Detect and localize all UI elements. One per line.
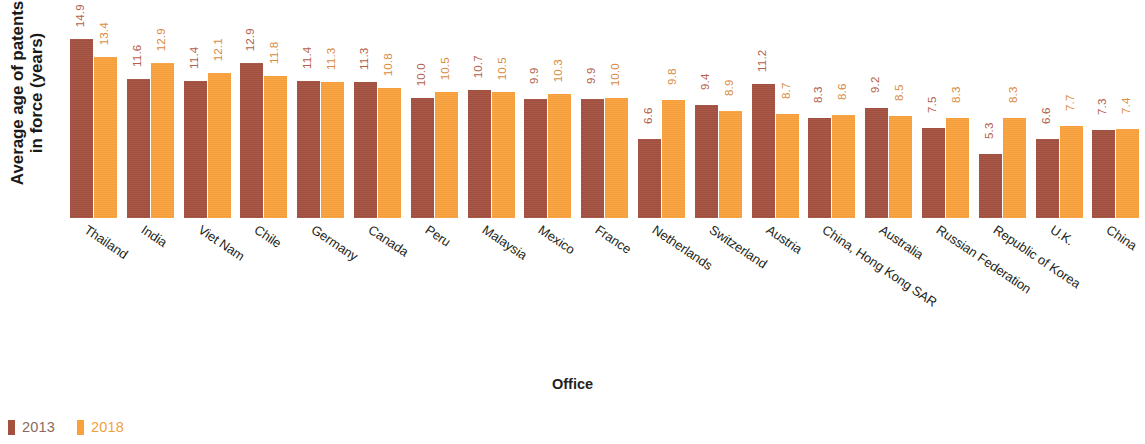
bar-2018-canada[interactable] <box>378 88 401 218</box>
bar-2013-russian-federation[interactable] <box>922 128 945 218</box>
bar-group: 11.310.8 <box>354 0 402 218</box>
bar-2013-mexico[interactable] <box>524 99 547 218</box>
bar-group: 11.412.1 <box>184 0 232 218</box>
bar-value-label: 11.2 <box>757 49 769 71</box>
bar-2013-u-k[interactable] <box>1036 139 1059 218</box>
bar-2018-china[interactable] <box>1116 129 1139 218</box>
legend-item-2018[interactable]: 2018 <box>77 419 124 435</box>
plot-area: 14.913.4Thailand11.612.9India11.412.1Vie… <box>66 0 1145 218</box>
bar-2018-france[interactable] <box>605 98 628 218</box>
bar-group: 8.38.6 <box>808 0 856 218</box>
bar-2018-u-k[interactable] <box>1060 126 1083 218</box>
bar-2013-viet-nam[interactable] <box>184 81 207 218</box>
legend-label: 2013 <box>22 419 55 435</box>
bar-value-label: 10.5 <box>440 57 452 80</box>
x-axis-tick-label: Germany <box>309 222 361 264</box>
x-axis-tick-label: Thailand <box>82 222 131 262</box>
bar-value-label: 11.3 <box>359 47 371 69</box>
legend-swatch-icon <box>77 420 84 435</box>
bar-2018-peru[interactable] <box>435 92 458 218</box>
bar-group: 14.913.4 <box>70 0 118 218</box>
x-axis-tick-label: Viet Nam <box>195 222 247 264</box>
bar-group: 10.010.5 <box>411 0 459 218</box>
bar-2013-malaysia[interactable] <box>468 90 491 218</box>
y-axis-title: Average age of patents in force (years) <box>5 0 49 198</box>
bar-2013-switzerland[interactable] <box>695 105 718 218</box>
bar-2013-china[interactable] <box>1092 130 1115 218</box>
bar-2018-austria[interactable] <box>776 114 799 218</box>
bar-value-label: 8.5 <box>894 84 906 101</box>
bar-2018-thailand[interactable] <box>94 57 117 218</box>
bar-2018-switzerland[interactable] <box>719 111 742 218</box>
y-axis-title-line-1: Average age of patents <box>8 1 27 185</box>
bar-group: 10.710.5 <box>468 0 516 218</box>
bar-2018-china-hong-kong-sar[interactable] <box>832 115 855 218</box>
bar-value-label: 10.5 <box>497 57 509 80</box>
bar-value-label: 5.3 <box>984 122 996 139</box>
legend-item-2013[interactable]: 2013 <box>8 419 55 435</box>
x-axis-tick-label: Malaysia <box>479 222 529 263</box>
bar-value-label: 6.6 <box>643 107 655 124</box>
bar-value-label: 11.6 <box>132 44 144 66</box>
bar-2018-netherlands[interactable] <box>662 100 685 218</box>
bar-2013-chile[interactable] <box>240 63 263 218</box>
bar-2013-france[interactable] <box>581 99 604 218</box>
bar-group: 11.411.3 <box>297 0 345 218</box>
bar-2013-china-hong-kong-sar[interactable] <box>808 118 831 218</box>
bar-2013-republic-of-korea[interactable] <box>979 154 1002 218</box>
bar-value-label: 11.8 <box>270 41 282 63</box>
bar-2013-germany[interactable] <box>297 81 320 218</box>
bar-group: 7.58.3 <box>922 0 970 218</box>
bar-value-label: 11.3 <box>326 47 338 69</box>
bar-value-label: 10.0 <box>416 63 428 86</box>
bar-2018-viet-nam[interactable] <box>208 73 231 218</box>
bar-value-label: 11.4 <box>189 46 201 68</box>
bar-2013-thailand[interactable] <box>70 39 93 218</box>
bar-group: 11.612.9 <box>127 0 175 218</box>
bar-group: 11.28.7 <box>752 0 800 218</box>
bar-value-label: 14.9 <box>75 4 87 27</box>
bar-value-label: 8.6 <box>838 83 850 100</box>
x-axis-tick-label: Peru <box>422 222 453 250</box>
bar-value-label: 8.7 <box>781 82 793 99</box>
bar-value-label: 9.9 <box>586 67 598 84</box>
bar-2018-chile[interactable] <box>264 76 287 218</box>
bar-group: 12.911.8 <box>240 0 288 218</box>
bar-2018-republic-of-korea[interactable] <box>1003 118 1026 218</box>
bar-2018-india[interactable] <box>151 63 174 218</box>
bar-value-label: 11.4 <box>302 46 314 68</box>
chart-legend: 20132018 <box>8 419 124 435</box>
x-axis-tick-label: U.K. <box>1047 222 1076 248</box>
bar-2018-germany[interactable] <box>321 82 344 218</box>
x-axis-tick-label: China <box>1104 222 1140 253</box>
bar-2018-mexico[interactable] <box>548 94 571 218</box>
bar-2013-peru[interactable] <box>411 98 434 218</box>
bar-value-label: 10.8 <box>383 53 395 76</box>
bar-value-label: 9.2 <box>870 76 882 93</box>
x-axis-tick-label: India <box>138 222 169 250</box>
bar-2018-australia[interactable] <box>889 116 912 218</box>
bar-value-label: 12.9 <box>156 28 168 51</box>
y-axis-title-line-2: in force (years) <box>27 33 46 153</box>
bar-2018-malaysia[interactable] <box>492 92 515 218</box>
bar-value-label: 10.7 <box>473 55 485 78</box>
bar-value-label: 7.4 <box>1122 97 1134 114</box>
x-axis-tick-label: Russian Federation <box>934 222 1034 296</box>
bar-2013-austria[interactable] <box>752 84 775 218</box>
bar-2018-russian-federation[interactable] <box>946 118 969 218</box>
bar-value-label: 7.3 <box>1098 98 1110 115</box>
x-axis-tick-label: Australia <box>877 222 927 262</box>
bar-2013-netherlands[interactable] <box>638 139 661 218</box>
bar-group: 9.48.9 <box>695 0 743 218</box>
bar-chart: Average age of patents in force (years) … <box>0 0 1145 444</box>
bar-group: 6.67.7 <box>1036 0 1084 218</box>
bar-value-label: 8.3 <box>814 86 826 103</box>
bar-2013-india[interactable] <box>127 79 150 218</box>
bar-2013-australia[interactable] <box>865 108 888 218</box>
bar-group: 9.28.5 <box>865 0 913 218</box>
bar-group: 7.37.4 <box>1092 0 1140 218</box>
bar-value-label: 8.9 <box>724 79 736 96</box>
legend-swatch-icon <box>8 420 15 435</box>
bar-value-label: 8.3 <box>951 86 963 103</box>
bar-2013-canada[interactable] <box>354 82 377 218</box>
